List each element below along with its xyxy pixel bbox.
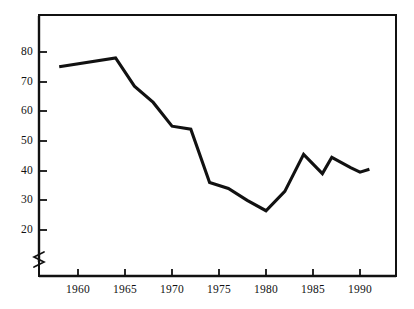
chart-screenshot: 80 70 60 50 40 30 20 1960 1965 1970 1975…	[0, 0, 414, 309]
x-tick-label-1965: 1965	[113, 284, 137, 296]
x-tick-label-1960: 1960	[66, 284, 90, 296]
x-tick-label-1990: 1990	[348, 284, 372, 296]
x-axis-labels: 1960 1965 1970 1975 1980 1985 1990	[0, 0, 414, 309]
x-tick-label-1975: 1975	[207, 284, 231, 296]
x-tick-label-1970: 1970	[160, 284, 184, 296]
x-tick-label-1985: 1985	[301, 284, 325, 296]
x-tick-label-1980: 1980	[254, 284, 278, 296]
